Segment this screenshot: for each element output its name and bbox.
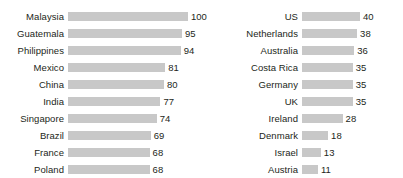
- category-label: Germany: [218, 79, 302, 90]
- value-label: 77: [160, 96, 174, 107]
- value-label: 69: [151, 130, 165, 141]
- bar: [302, 12, 360, 21]
- value-label: 38: [357, 28, 371, 39]
- chart-row: Poland68: [0, 161, 218, 178]
- bar: [302, 46, 354, 55]
- value-label: 13: [321, 147, 335, 158]
- bar-area: 28: [302, 110, 403, 127]
- bar: [68, 46, 181, 55]
- bar-area: 40: [302, 8, 403, 25]
- bar-area: 13: [302, 144, 403, 161]
- bar-area: 18: [302, 127, 403, 144]
- category-label: Ireland: [218, 113, 302, 124]
- bar-area: 35: [302, 76, 403, 93]
- bar-area: 68: [68, 144, 218, 161]
- category-label: Austria: [218, 164, 302, 175]
- category-label: France: [0, 147, 68, 158]
- bar-area: 36: [302, 42, 403, 59]
- chart-panel-right: US40Netherlands38Australia36Costa Rica35…: [218, 0, 403, 178]
- bar: [68, 114, 157, 123]
- category-label: Israel: [218, 147, 302, 158]
- bar: [68, 148, 150, 157]
- chart-row: Costa Rica35: [218, 59, 403, 76]
- bar: [302, 148, 321, 157]
- bar: [68, 63, 165, 72]
- bar-area: 35: [302, 93, 403, 110]
- dual-panel-bar-chart: Malaysia100Guatemala95Philippines94Mexic…: [0, 0, 403, 178]
- chart-row: Austria11: [218, 161, 403, 178]
- value-label: 94: [181, 45, 195, 56]
- chart-row: Ireland28: [218, 110, 403, 127]
- bar-area: 94: [68, 42, 218, 59]
- bar-area: 74: [68, 110, 218, 127]
- bar: [302, 63, 353, 72]
- chart-row: Israel13: [218, 144, 403, 161]
- value-label: 80: [164, 79, 178, 90]
- category-label: Poland: [0, 164, 68, 175]
- bar: [302, 165, 318, 174]
- chart-row: UK35: [218, 93, 403, 110]
- value-label: 18: [328, 130, 342, 141]
- value-label: 36: [354, 45, 368, 56]
- value-label: 74: [157, 113, 171, 124]
- chart-row: France68: [0, 144, 218, 161]
- category-label: US: [218, 11, 302, 22]
- category-label: Malaysia: [0, 11, 68, 22]
- chart-row: Malaysia100: [0, 8, 218, 25]
- bar: [302, 29, 357, 38]
- value-label: 68: [150, 164, 164, 175]
- chart-row: Brazil69: [0, 127, 218, 144]
- bar: [302, 97, 353, 106]
- value-label: 28: [343, 113, 357, 124]
- value-label: 11: [318, 164, 331, 175]
- bar-area: 100: [68, 8, 218, 25]
- bar-area: 81: [68, 59, 218, 76]
- chart-row: China80: [0, 76, 218, 93]
- category-label: Denmark: [218, 130, 302, 141]
- category-label: Philippines: [0, 45, 68, 56]
- bar: [302, 131, 328, 140]
- chart-row: Guatemala95: [0, 25, 218, 42]
- chart-row: Denmark18: [218, 127, 403, 144]
- bar: [68, 12, 188, 21]
- bar-area: 35: [302, 59, 403, 76]
- value-label: 100: [188, 11, 207, 22]
- chart-row: Mexico81: [0, 59, 218, 76]
- category-label: Mexico: [0, 62, 68, 73]
- chart-row: Australia36: [218, 42, 403, 59]
- chart-row: Singapore74: [0, 110, 218, 127]
- chart-panel-left: Malaysia100Guatemala95Philippines94Mexic…: [0, 0, 218, 178]
- chart-row: Germany35: [218, 76, 403, 93]
- bar: [68, 80, 164, 89]
- bar: [302, 80, 353, 89]
- category-label: Guatemala: [0, 28, 68, 39]
- bar-area: 77: [68, 93, 218, 110]
- value-label: 68: [150, 147, 164, 158]
- value-label: 35: [353, 62, 367, 73]
- bar: [68, 97, 160, 106]
- value-label: 95: [182, 28, 196, 39]
- category-label: UK: [218, 96, 302, 107]
- bar-area: 38: [302, 25, 403, 42]
- category-label: China: [0, 79, 68, 90]
- bar: [302, 114, 343, 123]
- bar: [68, 29, 182, 38]
- bar-area: 11: [302, 161, 403, 178]
- value-label: 35: [353, 79, 367, 90]
- value-label: 40: [360, 11, 374, 22]
- bar-area: 68: [68, 161, 218, 178]
- chart-row: India77: [0, 93, 218, 110]
- bar: [68, 165, 150, 174]
- category-label: Australia: [218, 45, 302, 56]
- bar-area: 95: [68, 25, 218, 42]
- value-label: 35: [353, 96, 367, 107]
- category-label: Singapore: [0, 113, 68, 124]
- category-label: Brazil: [0, 130, 68, 141]
- bar: [68, 131, 151, 140]
- chart-row: Netherlands38: [218, 25, 403, 42]
- bar-area: 69: [68, 127, 218, 144]
- category-label: Costa Rica: [218, 62, 302, 73]
- chart-row: US40: [218, 8, 403, 25]
- bar-area: 80: [68, 76, 218, 93]
- value-label: 81: [165, 62, 179, 73]
